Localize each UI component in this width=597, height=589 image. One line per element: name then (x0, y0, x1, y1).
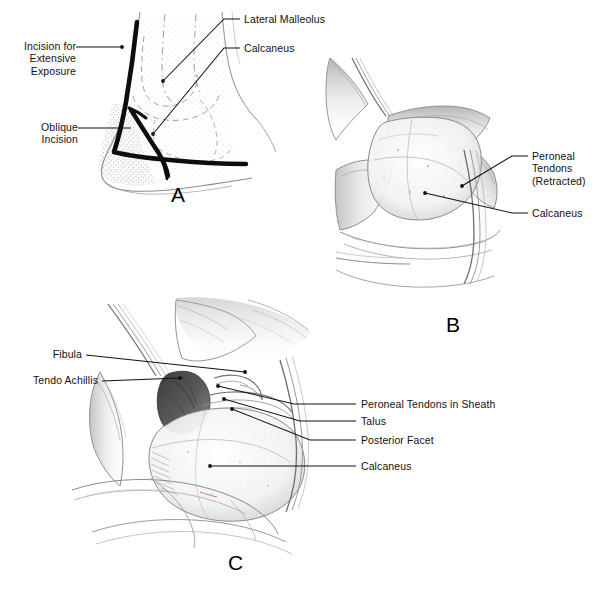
panel-c-drawing (72, 297, 356, 554)
label-incision-for-extensive-exposure: Incision for Extensive Exposure (0, 40, 76, 77)
panel-b-drawing (326, 58, 528, 287)
label-calcaneus-panel-c: Calcaneus (361, 460, 461, 472)
label-tendo-achillis: Tendo Achillis (0, 374, 98, 386)
label-oblique-incision: Oblique Incision (0, 121, 78, 146)
panel-letter-c: C (228, 551, 244, 575)
label-posterior-facet: Posterior Facet (361, 434, 481, 446)
label-fibula: Fibula (0, 348, 82, 360)
label-calcaneus-panel-a: Calcaneus (244, 42, 354, 54)
panel-a-drawing (76, 12, 276, 194)
medical-illustration-figure: Incision for Extensive Exposure Oblique … (0, 0, 597, 589)
label-talus: Talus (361, 415, 441, 427)
label-peroneal-tendons-retracted: Peroneal Tendons (Retracted) (532, 150, 597, 187)
panel-letter-a: A (171, 183, 185, 207)
panel-letter-b: B (446, 313, 460, 337)
label-calcaneus-panel-b: Calcaneus (532, 207, 597, 219)
illustration-canvas (0, 0, 597, 589)
label-lateral-malleolus: Lateral Malleolus (244, 13, 364, 25)
label-peroneal-tendons-in-sheath: Peroneal Tendons in Sheath (361, 398, 541, 410)
